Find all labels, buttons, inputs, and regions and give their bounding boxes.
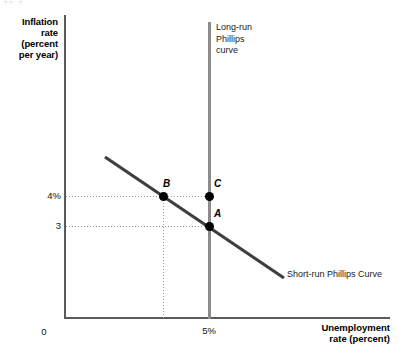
phillips-curve-figure: ▫▫ ▫ B C A Long-run Phillips curve Short… bbox=[0, 0, 402, 364]
y-tick-label-4-percent: 4% bbox=[30, 190, 61, 201]
point-a-marker bbox=[205, 222, 214, 231]
point-a-label: A bbox=[214, 208, 221, 219]
point-c-label: C bbox=[214, 178, 221, 189]
point-b-marker bbox=[159, 192, 168, 201]
long-run-phillips-curve-label: Long-run Phillips curve bbox=[216, 22, 252, 57]
point-b-label: B bbox=[163, 178, 170, 189]
short-run-phillips-curve-label: Short-run Phillips Curve bbox=[287, 269, 382, 279]
x-axis-title: Unemployment rate (percent) bbox=[250, 322, 390, 344]
short-run-phillips-curve-line bbox=[0, 0, 402, 364]
point-c-marker bbox=[205, 192, 214, 201]
y-axis-title: Inflation rate (percent per year) bbox=[0, 16, 58, 60]
y-tick-label-3: 3 bbox=[30, 220, 61, 231]
x-tick-label-5-percent: 5% bbox=[194, 325, 224, 336]
x-tick-label-origin: 0 bbox=[36, 326, 52, 337]
